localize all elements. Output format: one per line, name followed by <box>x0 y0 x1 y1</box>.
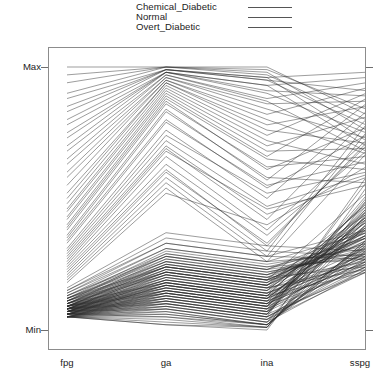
legend-item-overt-diabetic: Overt_Diabetic <box>136 22 296 32</box>
legend-line-sample-normal <box>248 17 292 18</box>
x-axis-label-fpg: fpg <box>60 357 73 368</box>
legend-line-sample-overt-diabetic <box>248 27 292 28</box>
y-tick-min-left <box>41 330 48 331</box>
y-axis-label-max: Max <box>23 62 41 72</box>
y-tick-max-right <box>366 67 373 68</box>
x-axis-label-sspg: sspg <box>350 357 370 368</box>
legend-line-sample-chemical-diabetic <box>248 7 292 8</box>
plot-frame <box>48 47 366 350</box>
y-tick-max-left <box>41 67 48 68</box>
x-axis-label-ina: ina <box>261 357 274 368</box>
legend: Chemical_Diabetic Normal Overt_Diabetic <box>136 2 296 32</box>
y-axis-label-min: Min <box>26 325 41 335</box>
parallel-coordinates-figure: Chemical_Diabetic Normal Overt_Diabetic … <box>0 0 389 383</box>
legend-label-overt-diabetic: Overt_Diabetic <box>136 22 200 32</box>
x-axis-label-ga: ga <box>161 357 172 368</box>
y-tick-min-right <box>366 330 373 331</box>
